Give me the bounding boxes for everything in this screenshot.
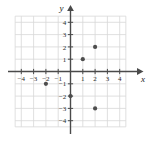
coordinate-plane-figure: −4−3−2−112344321−1−2−3−4 yx bbox=[0, 0, 149, 142]
y-tick-label: 2 bbox=[63, 44, 67, 52]
data-point bbox=[93, 45, 97, 49]
y-tick-label: −2 bbox=[59, 93, 67, 101]
y-tick-label: 4 bbox=[63, 19, 67, 27]
x-tick-label: 1 bbox=[81, 75, 85, 83]
x-tick-label: 3 bbox=[106, 75, 110, 83]
x-tick-label: 2 bbox=[93, 75, 97, 83]
data-point bbox=[44, 82, 48, 86]
data-point bbox=[68, 94, 72, 98]
y-axis-arrowhead bbox=[67, 5, 74, 11]
data-point bbox=[93, 106, 97, 110]
x-tick-label: −4 bbox=[18, 75, 26, 83]
coordinate-plane-svg: −4−3−2−112344321−1−2−3−4 yx bbox=[0, 0, 149, 142]
y-tick-label: −3 bbox=[59, 105, 67, 113]
data-point bbox=[81, 57, 85, 61]
y-tick-label: −4 bbox=[59, 117, 67, 125]
y-tick-label: 3 bbox=[63, 31, 67, 39]
y-tick-label: −1 bbox=[59, 80, 67, 88]
y-tick-label: 1 bbox=[63, 56, 67, 64]
x-axis-label: x bbox=[140, 74, 145, 84]
y-axis-label: y bbox=[59, 3, 64, 13]
x-tick-label: −3 bbox=[30, 75, 38, 83]
x-tick-label: 4 bbox=[118, 75, 122, 83]
axis-lines bbox=[8, 5, 144, 134]
